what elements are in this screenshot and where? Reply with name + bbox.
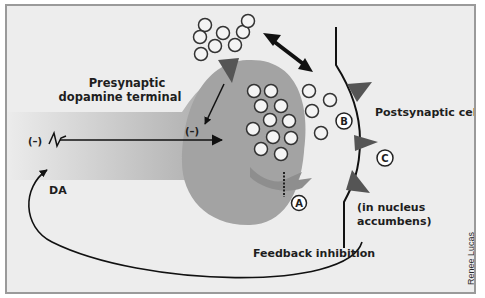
presynaptic-label-2: dopamine terminal — [59, 90, 182, 104]
diagram-frame: A B C Presynaptic dopamine terminal (–) … — [5, 4, 476, 294]
feedback-label: Feedback inhibition — [253, 247, 375, 260]
artist-credit: Renee Lucas — [466, 231, 476, 285]
inhibition-left-label: (–) — [28, 136, 42, 147]
site-a-label: A — [295, 198, 303, 209]
postsynaptic-receptors — [346, 82, 378, 193]
nucleus-label-2: accumbens) — [357, 215, 432, 228]
vesicles-released-top — [194, 15, 255, 61]
site-markers — [292, 113, 394, 211]
inhibition-inner-label: (–) — [185, 126, 199, 137]
nucleus-label-1: (in nucleus — [357, 201, 426, 214]
presynaptic-label-1: Presynaptic — [89, 76, 166, 90]
postsynaptic-label: Postsynaptic cell — [375, 106, 476, 119]
site-b-label: B — [340, 116, 348, 127]
site-c-label: C — [381, 153, 388, 164]
synapse-diagram: A B C Presynaptic dopamine terminal (–) … — [7, 6, 476, 294]
vesicles-cleft — [303, 85, 337, 140]
da-label: DA — [49, 184, 67, 197]
